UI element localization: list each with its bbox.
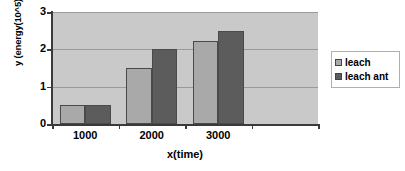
x-axis-tick-mark (52, 124, 54, 129)
bar (126, 68, 152, 124)
x-axis-tick-label: 1000 (52, 129, 118, 141)
y-axis-tick-label: 0 (24, 118, 46, 129)
x-axis-title: x(time) (52, 148, 318, 160)
x-axis-tick-label: 3000 (185, 129, 251, 141)
x-axis-tick-mark (185, 124, 187, 129)
y-axis-tick-mark (47, 87, 52, 89)
y-axis-tick-mark (47, 12, 52, 14)
bar-series-container (52, 12, 318, 124)
chart-legend: leach leach ant (331, 51, 400, 88)
y-axis-tick-label: 1 (24, 81, 46, 92)
y-axis-tick-labels: 0123 (24, 0, 46, 171)
y-axis-tick-label: 2 (24, 43, 46, 54)
legend-item: leach ant (335, 69, 396, 83)
bar (60, 105, 86, 124)
bar-chart: y (energy(10^5)) 0123 100020003000 x(tim… (0, 0, 405, 171)
legend-item-label: leach ant (345, 71, 388, 82)
bar (193, 41, 219, 124)
x-axis-tick-mark (119, 124, 121, 129)
bar (218, 31, 244, 124)
x-axis-tick-mark (252, 124, 254, 129)
legend-swatch-icon (335, 59, 342, 66)
legend-item-label: leach (345, 57, 371, 68)
x-axis-tick-labels: 100020003000 (52, 129, 318, 145)
y-axis-tick-mark (47, 49, 52, 51)
x-axis-tick-label: 2000 (119, 129, 185, 141)
x-axis-tick-mark (318, 124, 320, 129)
bar (85, 105, 111, 124)
legend-swatch-icon (335, 73, 342, 80)
bar (152, 49, 178, 124)
y-axis-tick-label: 3 (24, 6, 46, 17)
legend-item: leach (335, 55, 396, 69)
